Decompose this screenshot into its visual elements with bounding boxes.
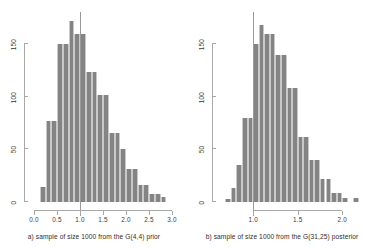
x-tick [172, 211, 173, 215]
caption-a: a) sample of size 1000 from the G(4,4) p… [0, 233, 188, 240]
panel-b: 1.01.52.0050100150 b) sample of size 100… [188, 0, 376, 248]
y-tick [24, 96, 28, 97]
x-tick-label: 1.5 [293, 216, 302, 223]
histogram-bar [342, 198, 348, 202]
x-tick [103, 211, 104, 215]
y-tick-label: 100 [198, 87, 205, 107]
y-tick-label: 0 [10, 193, 17, 213]
plot-area-b: 1.01.52.0050100150 [222, 18, 360, 202]
x-tick-label: 0.0 [29, 216, 38, 223]
y-tick [212, 43, 216, 44]
y-tick [24, 148, 28, 149]
x-tick-label: 2.5 [144, 216, 153, 223]
reference-vline [253, 12, 254, 216]
y-axis-line [212, 44, 213, 202]
x-tick [149, 211, 150, 215]
y-tick-label: 150 [10, 35, 17, 55]
y-tick [212, 201, 216, 202]
x-tick [80, 211, 81, 215]
x-tick-label: 0.5 [52, 216, 61, 223]
y-tick [24, 43, 28, 44]
y-tick-label: 50 [198, 140, 205, 160]
y-tick [212, 96, 216, 97]
x-tick [34, 211, 35, 215]
x-tick-label: 1.0 [75, 216, 84, 223]
reference-vline [80, 12, 81, 216]
histogram-bar [353, 198, 359, 202]
x-tick-label: 1.0 [248, 216, 257, 223]
y-tick-label: 100 [10, 87, 17, 107]
y-tick-label: 0 [198, 193, 205, 213]
y-tick [24, 201, 28, 202]
x-tick-label: 1.5 [98, 216, 107, 223]
y-tick-label: 150 [198, 35, 205, 55]
caption-b: b) sample of size 1000 from the G(31,25)… [188, 233, 376, 240]
histogram-bars-a [34, 18, 172, 202]
plot-area-a: 0.00.51.01.52.02.53.0050100150 [34, 18, 172, 202]
x-tick [253, 211, 254, 215]
x-tick-label: 2.0 [121, 216, 130, 223]
x-tick [57, 211, 58, 215]
x-tick [126, 211, 127, 215]
x-tick [298, 211, 299, 215]
y-tick-label: 50 [10, 140, 17, 160]
histogram-bar [161, 197, 167, 202]
x-tick [342, 211, 343, 215]
y-axis-line [24, 44, 25, 202]
x-tick-label: 3.0 [167, 216, 176, 223]
figure-two-histograms: 0.00.51.01.52.02.53.0050100150 a) sample… [0, 0, 376, 248]
panel-a: 0.00.51.01.52.02.53.0050100150 a) sample… [0, 0, 188, 248]
y-tick [212, 148, 216, 149]
histogram-bars-b [222, 18, 360, 202]
x-tick-label: 2.0 [337, 216, 346, 223]
